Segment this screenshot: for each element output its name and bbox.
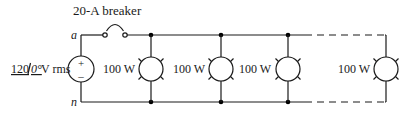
source-wires (81, 35, 103, 102)
lamp-icon (276, 57, 300, 81)
source-magnitude: 120 (11, 62, 29, 76)
breaker-label: 20-A breaker (73, 3, 142, 18)
lamp-2: 100 W (173, 35, 234, 102)
lamp-label: 100 W (173, 62, 206, 76)
lamp-1: 100 W (103, 35, 164, 102)
voltage-source: + – (68, 56, 94, 82)
circuit-diagram: 20-A breaker a n + – 120 0° V rms (0, 0, 416, 114)
lamp-icon (139, 57, 163, 81)
breaker-terminal-left-icon (103, 33, 107, 37)
source-label: 120 0° V rms (11, 62, 71, 76)
lamp-icon (209, 57, 233, 81)
node-a-label: a (71, 28, 77, 42)
breaker-terminal-right-icon (123, 33, 127, 37)
lamp-3: 100 W (239, 35, 301, 102)
node-n-label: n (71, 95, 77, 109)
source-minus: – (77, 70, 84, 82)
breaker-switch (103, 25, 127, 38)
lamp-label: 100 W (103, 62, 136, 76)
lamp-4: 100 W (338, 35, 399, 102)
source-unit: V rms (41, 62, 71, 76)
source-plus: + (78, 57, 84, 69)
lamp-label: 100 W (239, 62, 272, 76)
breaker-arc-icon (107, 25, 124, 32)
lamp-label: 100 W (338, 62, 371, 76)
lamp-icon (374, 57, 398, 81)
